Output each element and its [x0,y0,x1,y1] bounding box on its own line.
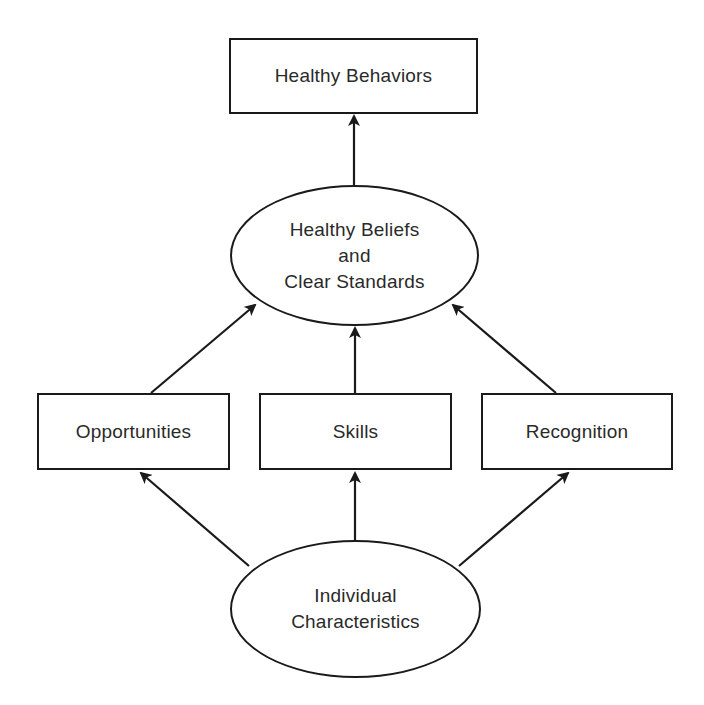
node-label-line-1: Individual [314,583,396,609]
edge-individual-to-recognition [459,473,568,566]
node-label-line-2: Characteristics [291,609,420,635]
node-opportunities: Opportunities [37,393,230,470]
edge-recognition-to-beliefs [453,305,556,393]
edge-opportunities-to-beliefs [151,305,255,393]
node-label-line-1: Healthy Beliefs [290,217,420,243]
node-label-line-3: Clear Standards [284,269,424,295]
node-healthy-beliefs-clear-standards: Healthy Beliefs and Clear Standards [230,185,479,326]
node-individual-characteristics: Individual Characteristics [230,540,481,678]
node-recognition: Recognition [481,393,673,470]
diagram-canvas: Healthy Behaviors Healthy Beliefs and Cl… [0,0,704,705]
node-label: Recognition [526,419,629,445]
node-skills: Skills [259,393,452,470]
node-label: Skills [333,419,379,445]
node-label-line-2: and [338,243,370,269]
node-healthy-behaviors: Healthy Behaviors [229,38,478,114]
node-label: Healthy Behaviors [275,63,433,89]
edge-individual-to-opportunities [141,473,249,566]
node-label: Opportunities [76,419,192,445]
